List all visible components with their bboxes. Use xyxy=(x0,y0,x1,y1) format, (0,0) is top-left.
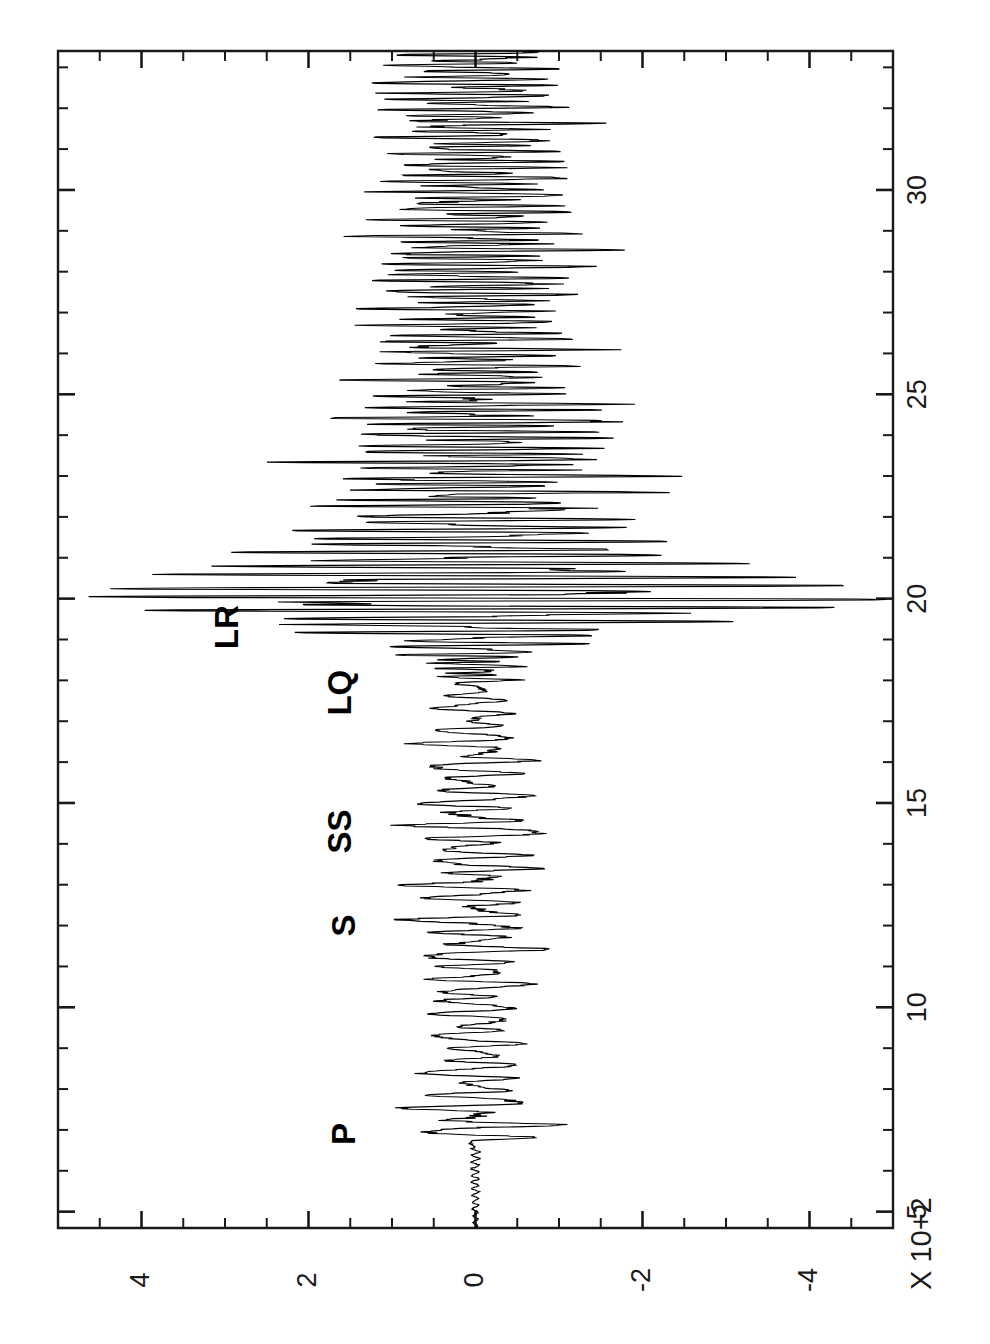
phase-label-s: S xyxy=(325,915,362,937)
phase-label-ss: SS xyxy=(321,810,358,854)
time-tick-label: 25 xyxy=(902,379,932,409)
phase-label-lq: LQ xyxy=(321,670,358,716)
time-tick-label: 15 xyxy=(902,788,932,818)
phase-label-lr: LR xyxy=(208,605,245,649)
amplitude-tick-label: -2 xyxy=(626,1268,656,1292)
amplitude-tick-label: 0 xyxy=(459,1272,489,1287)
amplitude-tick-label: -4 xyxy=(793,1268,823,1292)
seismogram-figure: 51015202530420-2-4 PSSSLQLR X 10+2 xyxy=(0,0,990,1344)
time-axis-multiplier-label: X 10+2 xyxy=(905,1197,937,1290)
time-tick-label: 10 xyxy=(902,992,932,1022)
time-tick-label: 30 xyxy=(902,175,932,205)
plot-background xyxy=(0,0,990,1344)
seismogram-plot: 51015202530420-2-4 PSSSLQLR X 10+2 xyxy=(0,0,990,1344)
time-tick-label: 20 xyxy=(902,584,932,614)
amplitude-tick-label: 2 xyxy=(292,1272,322,1287)
phase-label-p: P xyxy=(325,1123,362,1145)
amplitude-tick-label: 4 xyxy=(125,1272,155,1287)
